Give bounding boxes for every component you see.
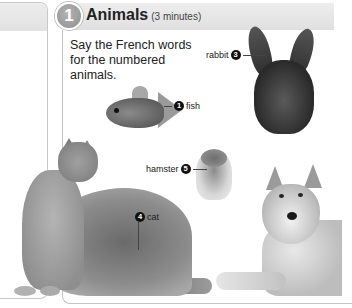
exercise-duration: (3 minutes) (151, 11, 201, 22)
label-fish-text: fish (186, 101, 200, 111)
fish-image (106, 98, 164, 128)
dog-image (216, 272, 286, 290)
cat-image (40, 286, 60, 296)
label-rabbit-text: rabbit (206, 50, 229, 60)
leader-line (193, 169, 207, 170)
label-hamster: hamster 5 (146, 164, 207, 174)
dog-image (279, 194, 284, 198)
label-rabbit: rabbit 3 (206, 50, 265, 60)
exercise-number-badge: 1 (55, 2, 83, 30)
exercise-instructions: Say the French words for the numbered an… (70, 38, 200, 83)
cat-image (22, 170, 84, 290)
number-5-icon: 5 (181, 164, 191, 174)
label-cat: 4 cat (133, 212, 159, 222)
number-3-icon: 3 (231, 50, 241, 60)
rabbit-image (254, 60, 314, 134)
dog-image (298, 193, 303, 197)
dog-image (304, 164, 322, 188)
leader-line (164, 106, 172, 107)
exercise-title: Animals(3 minutes) (86, 6, 201, 24)
label-cat-text: cat (147, 212, 159, 222)
leader-line (243, 55, 265, 56)
label-hamster-text: hamster (146, 164, 179, 174)
number-4-icon: 4 (135, 212, 145, 222)
number-1-icon: 1 (174, 101, 184, 111)
fish-image (114, 108, 119, 113)
cat-image (58, 142, 98, 182)
previous-panel-header (0, 3, 47, 31)
cat-image (14, 286, 36, 296)
exercise-title-text: Animals (86, 6, 148, 23)
label-fish: 1 fish (164, 101, 200, 111)
cat-leader-line (138, 222, 139, 250)
dog-image (287, 212, 297, 220)
